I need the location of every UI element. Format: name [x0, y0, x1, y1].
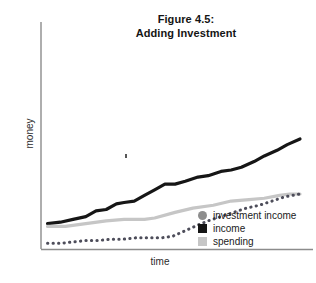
legend-label: spending	[213, 236, 254, 248]
legend-label: income	[213, 223, 245, 235]
legend-item: income	[198, 223, 296, 235]
legend-item: investment income	[198, 210, 296, 222]
legend-item: spending	[198, 236, 296, 248]
scan-artifact-speck	[125, 154, 127, 158]
figure-container: Figure 4.5: Adding Investment money time…	[0, 0, 316, 283]
figure-title-line-1: Figure 4.5:	[96, 12, 276, 26]
legend-label: investment income	[213, 210, 296, 222]
y-axis-label: money	[24, 104, 35, 164]
x-axis-label: time	[120, 256, 200, 267]
legend-marker-income	[198, 224, 207, 233]
legend-marker-spending	[198, 237, 207, 246]
figure-title: Figure 4.5: Adding Investment	[96, 12, 276, 40]
chart-legend: investment incomeincomespending	[198, 210, 296, 249]
legend-marker-investment-income	[198, 211, 207, 220]
figure-title-line-2: Adding Investment	[96, 26, 276, 40]
